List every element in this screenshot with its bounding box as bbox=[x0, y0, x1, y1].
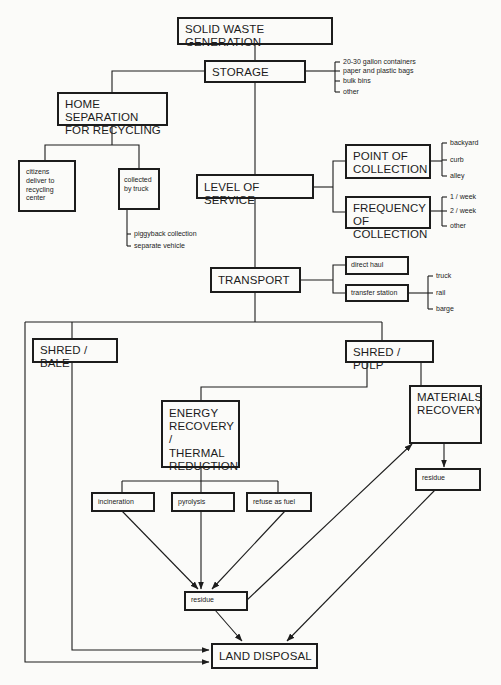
collection-point: alley bbox=[450, 172, 464, 179]
node-label: collected by truck bbox=[124, 176, 152, 194]
solid-waste-flow-diagram: SOLID WASTE GENERATION STORAGE 20-30 gal… bbox=[0, 0, 501, 685]
node-label: pyrolysis bbox=[178, 498, 205, 506]
node-label: SHRED / PULP bbox=[353, 346, 432, 372]
storage-option: paper and plastic bags bbox=[343, 67, 413, 74]
node-label: SHRED / BALE bbox=[40, 344, 116, 370]
node-transport: TRANSPORT bbox=[210, 267, 301, 293]
node-shred-bale: SHRED / BALE bbox=[32, 338, 118, 363]
node-label: ENERGY RECOVERY / THERMAL REDUCTION bbox=[169, 407, 238, 473]
node-label: MATERIALS RECOVERY bbox=[417, 391, 482, 417]
transfer-mode: rail bbox=[436, 289, 445, 296]
node-transfer-station: transfer station bbox=[345, 284, 409, 302]
node-label: HOME SEPARATION FOR RECYCLING bbox=[65, 98, 166, 138]
node-label: FREQUENCY OF COLLECTION bbox=[353, 202, 429, 242]
node-level-of-service: LEVEL OF SERVICE bbox=[196, 174, 314, 199]
node-incineration: incineration bbox=[91, 492, 155, 512]
node-solid-waste-generation: SOLID WASTE GENERATION bbox=[177, 17, 333, 45]
node-land-disposal: LAND DISPOSAL bbox=[211, 643, 318, 669]
collection-frequency: other bbox=[450, 222, 466, 229]
node-energy-recovery: ENERGY RECOVERY / THERMAL REDUCTION bbox=[161, 400, 240, 468]
node-label: TRANSPORT bbox=[218, 274, 290, 287]
node-residue-energy: residue bbox=[184, 591, 248, 611]
node-materials-recovery: MATERIALS RECOVERY bbox=[409, 385, 482, 444]
storage-option: other bbox=[343, 88, 359, 95]
node-collected-by-truck: collected by truck bbox=[118, 168, 160, 210]
node-label: LAND DISPOSAL bbox=[219, 650, 312, 663]
truck-collection-option: separate vehicle bbox=[134, 242, 185, 249]
node-direct-haul: direct haul bbox=[345, 256, 409, 275]
node-label: refuse as fuel bbox=[253, 498, 295, 506]
node-label: STORAGE bbox=[212, 66, 269, 79]
node-shred-pulp: SHRED / PULP bbox=[345, 340, 434, 363]
node-frequency-of-collection: FREQUENCY OF COLLECTION bbox=[345, 196, 431, 229]
node-residue-materials: residue bbox=[415, 468, 481, 491]
collection-point: backyard bbox=[450, 139, 478, 146]
node-label: residue bbox=[191, 596, 214, 604]
node-point-of-collection: POINT OF COLLECTION bbox=[345, 144, 431, 179]
node-label: transfer station bbox=[351, 289, 397, 297]
node-label: LEVEL OF SERVICE bbox=[204, 181, 312, 207]
collection-frequency: 2 / week bbox=[450, 207, 476, 214]
storage-option: 20-30 gallon containers bbox=[343, 58, 416, 65]
node-home-separation: HOME SEPARATION FOR RECYCLING bbox=[57, 92, 168, 126]
node-storage: STORAGE bbox=[204, 60, 306, 83]
node-refuse-as-fuel: refuse as fuel bbox=[246, 492, 312, 512]
collection-frequency: 1 / week bbox=[450, 193, 476, 200]
node-label: direct haul bbox=[351, 261, 383, 269]
node-label: incineration bbox=[98, 498, 134, 506]
node-pyrolysis: pyrolysis bbox=[171, 492, 235, 512]
node-citizens-deliver: citizens deliver to recycling center bbox=[18, 160, 76, 212]
transfer-mode: truck bbox=[436, 272, 451, 279]
node-label: citizens deliver to recycling center bbox=[26, 168, 54, 203]
collection-point: curb bbox=[450, 156, 464, 163]
node-label: SOLID WASTE GENERATION bbox=[185, 23, 331, 49]
truck-collection-option: piggyback collection bbox=[134, 230, 197, 237]
storage-option: bulk bins bbox=[343, 77, 371, 84]
node-label: POINT OF COLLECTION bbox=[353, 150, 428, 176]
node-label: residue bbox=[422, 474, 445, 482]
transfer-mode: barge bbox=[436, 305, 454, 312]
